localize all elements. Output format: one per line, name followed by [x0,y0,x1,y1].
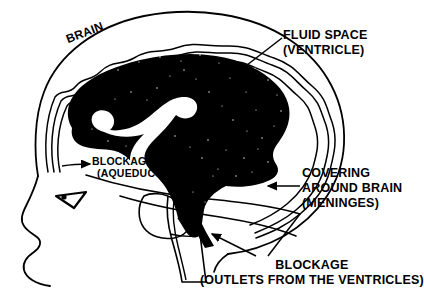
label-covering-line2: AROUND BRAIN [302,181,402,196]
label-blockage-aqueduct-arrow-icon: → [154,155,165,167]
label-covering-line3: (MENINGES) [302,196,402,211]
leader-blockage-aqueduct [62,164,90,166]
label-blockage-outlets-line2: (OUTLETS FROM THE VENTRICLES) [200,273,424,288]
label-fluid-space-line2: (VENTRICLE) [283,43,368,58]
eye [56,192,86,208]
label-fluid-space-line1: FLUID SPACE [283,28,368,43]
label-blockage-aqueduct-line2: (AQUEDUCT) [92,167,166,179]
label-blockage-aqueduct: BLOCKAGE→ (AQUEDUCT) [92,155,166,180]
label-blockage-outlets-line1: BLOCKAGE [200,258,424,273]
label-blockage-aqueduct-line1: BLOCKAGE→ [92,155,166,167]
label-covering-line1: COVERING [302,166,402,181]
label-blockage-outlets: BLOCKAGE (OUTLETS FROM THE VENTRICLES) [200,258,424,288]
face-front-profile [22,176,50,286]
pupil [61,194,66,199]
label-blockage-aqueduct-word: BLOCKAGE [92,155,154,167]
label-fluid-space: FLUID SPACE (VENTRICLE) [283,28,368,58]
label-covering-around-brain: COVERING AROUND BRAIN (MENINGES) [302,166,402,210]
brain-mass-silhouette [68,54,290,238]
